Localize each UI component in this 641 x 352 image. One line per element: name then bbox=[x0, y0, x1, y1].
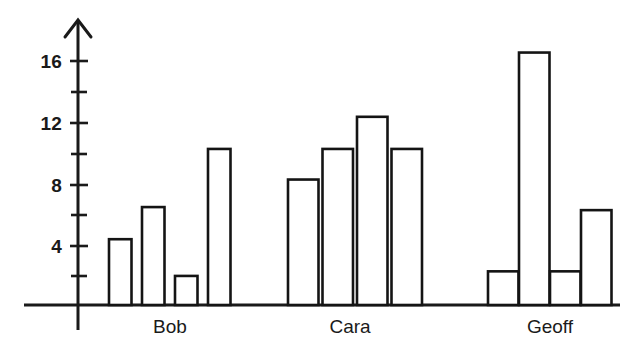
bar-geoff-2 bbox=[519, 53, 550, 305]
y-axis-label-16: 16 bbox=[22, 52, 62, 71]
bar-bob-4 bbox=[208, 149, 231, 305]
bar-cara-4 bbox=[392, 149, 423, 305]
bar-geoff-1 bbox=[488, 271, 519, 305]
bar-geoff-4 bbox=[581, 210, 612, 305]
bar-cara-1 bbox=[288, 180, 319, 305]
y-axis-label-8: 8 bbox=[22, 176, 62, 195]
category-label-geoff: Geoff bbox=[527, 317, 573, 336]
bar-bob-3 bbox=[175, 276, 198, 305]
category-label-bob: Bob bbox=[153, 317, 187, 336]
category-label-cara: Cara bbox=[329, 317, 370, 336]
bar-bob-1 bbox=[109, 239, 132, 305]
y-axis-label-4: 4 bbox=[22, 237, 62, 256]
chart-canvas bbox=[0, 0, 641, 352]
bar-cara-3 bbox=[357, 117, 388, 305]
bar-chart: 16 12 8 4 Bob Cara Geoff bbox=[0, 0, 641, 352]
bar-bob-2 bbox=[142, 207, 165, 305]
y-axis-label-12: 12 bbox=[22, 114, 62, 133]
bar-cara-2 bbox=[323, 149, 354, 305]
y-axis bbox=[65, 20, 91, 330]
bar-geoff-3 bbox=[550, 271, 581, 305]
bars-layer bbox=[109, 53, 612, 305]
